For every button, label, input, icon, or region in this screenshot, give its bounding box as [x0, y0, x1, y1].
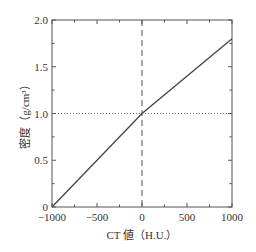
y-tick-label: 1.5 — [34, 61, 48, 73]
x-axis-ticks: −1000−50005001000 — [38, 20, 244, 223]
x-tick-label: 1000 — [221, 211, 244, 223]
y-tick-label: 0 — [43, 201, 49, 213]
x-tick-label: 500 — [179, 211, 196, 223]
y-tick-label: 2.0 — [34, 14, 48, 26]
y-tick-label: 1.0 — [34, 108, 48, 120]
x-axis-title: CT 値（H.U.） — [107, 229, 178, 241]
x-tick-label: 0 — [139, 211, 145, 223]
x-tick-label: −500 — [86, 211, 109, 223]
y-axis-title: 密度（g/cm³） — [18, 79, 31, 148]
chart: −1000−50005001000 00.51.01.52.0 CT 値（H.U… — [0, 0, 256, 252]
y-tick-label: 0.5 — [34, 154, 48, 166]
